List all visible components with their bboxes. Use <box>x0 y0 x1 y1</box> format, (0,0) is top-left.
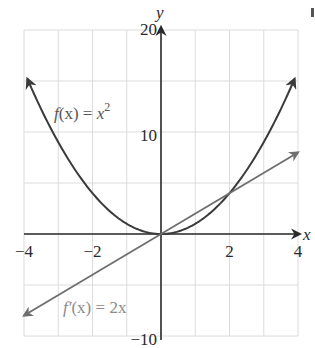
parabola-label: f(x) = x2 <box>54 100 110 123</box>
page-edge-mark <box>311 8 314 17</box>
chart-figure: −4−2242010−10 y x f(x) = x2 f′(x) = 2x <box>0 0 315 348</box>
y-tick-label: −10 <box>130 330 157 348</box>
y-tick-label: 20 <box>140 20 157 39</box>
x-axis-label: x <box>302 225 311 244</box>
x-tick-label: 4 <box>294 242 303 261</box>
derivative-label: f′(x) = 2x <box>63 298 127 317</box>
x-tick-label: −2 <box>83 242 101 261</box>
x-tick-label: 2 <box>225 242 234 261</box>
y-axis-label: y <box>154 3 164 22</box>
x-tick-label: −4 <box>15 242 34 261</box>
y-tick-label: 10 <box>140 126 157 145</box>
